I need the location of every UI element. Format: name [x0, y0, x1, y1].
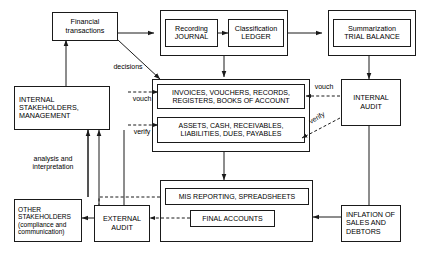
edge-label-analysis-interpretation: analysis and interpretation: [20, 155, 86, 171]
node-final-accounts[interactable]: FINAL ACCOUNTS: [190, 210, 275, 227]
node-assets-cash[interactable]: ASSETS, CASH, RECEIVABLES, LIABILITIES, …: [157, 117, 305, 143]
node-external-audit[interactable]: EXTERNAL AUDIT: [94, 205, 150, 242]
edge-label-vouch-right: vouch: [309, 83, 339, 91]
edge-label-verify-left: verify: [128, 128, 156, 136]
node-classification-ledger[interactable]: Classification LEDGER: [228, 19, 284, 47]
edge-label-vouch-left: vouch: [128, 95, 156, 103]
node-invoices-vouchers[interactable]: INVOICES, VOUCHERS, RECORDS, REGISTERS, …: [157, 84, 305, 109]
edge-mis-to-stakeholders-dashed: [99, 197, 160, 205]
node-recording-journal[interactable]: Recording JOURNAL: [165, 19, 218, 47]
node-financial-transactions[interactable]: Financial transactions: [52, 12, 118, 41]
edge-label-decisions: decisions: [104, 63, 152, 71]
node-internal-audit[interactable]: INTERNAL AUDIT: [341, 79, 401, 126]
node-summarization-trial-balance[interactable]: Summarization TRIAL BALANCE: [333, 19, 411, 47]
node-other-stakeholders[interactable]: OTHER STAKEHOLDERS (compliance and commu…: [14, 199, 82, 242]
node-internal-stakeholders[interactable]: INTERNAL STAKEHOLDERS, MANAGEMENT: [14, 86, 110, 130]
edge-decisions: [118, 40, 160, 79]
diagram-canvas: Financial transactions Recording JOURNAL…: [0, 0, 424, 254]
node-mis-reporting[interactable]: MIS REPORTING, SPREADSHEETS: [165, 188, 309, 205]
node-inflation-sales-debtors[interactable]: INFLATION OF SALES AND DEBTORS: [341, 205, 401, 242]
